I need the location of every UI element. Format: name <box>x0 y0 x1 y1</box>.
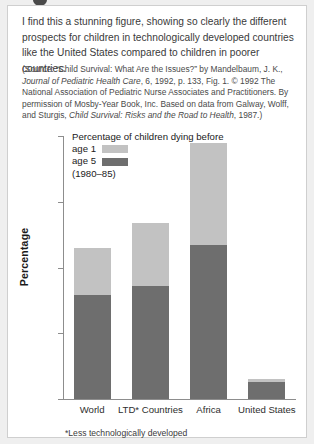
bar-segment-age5 <box>248 382 285 399</box>
bar-world <box>74 248 111 399</box>
y-axis-line <box>63 136 64 399</box>
y-axis-tick <box>58 136 63 137</box>
x-axis-line <box>63 399 296 400</box>
bar-segment-age1 <box>190 143 227 246</box>
x-axis-label: LTD* Countries <box>118 404 183 415</box>
bar-chart: Percentage Percentage of children dying … <box>8 131 308 439</box>
bar-ltd-countries <box>132 223 169 399</box>
bar-segment-age5 <box>190 245 227 399</box>
chart-footnote: *Less technologically developed <box>65 428 187 438</box>
y-axis-tick <box>58 268 63 269</box>
source-citation: (Source: “Child Survival: What Are the I… <box>22 64 299 122</box>
figure-page: I find this a stunning figure, showing s… <box>0 0 314 444</box>
x-axis-label: Africa <box>196 404 221 415</box>
bar-africa <box>190 143 227 399</box>
y-axis-tick <box>58 399 63 400</box>
x-axis-label: United States <box>238 404 296 415</box>
y-axis-label: Percentage <box>18 217 30 297</box>
y-axis-tick <box>58 202 63 203</box>
bar-united-states <box>248 379 285 399</box>
source-book-title: Child Survival: Risks and the Road to He… <box>69 110 234 120</box>
bar-segment-age1 <box>132 223 169 286</box>
source-book-details: , 1987.) <box>234 110 262 120</box>
bar-segment-age5 <box>132 286 169 399</box>
source-article-title: “Child Survival: What Are the Issues?” b… <box>56 64 283 74</box>
bar-segment-age1 <box>74 248 111 295</box>
y-axis-tick <box>58 333 63 334</box>
bar-segment-age5 <box>74 295 111 399</box>
figure-card: I find this a stunning figure, showing s… <box>7 5 307 438</box>
source-open-paren: (Source: <box>22 64 54 74</box>
plot-area: 05101520WorldLTD* CountriesAfricaUnited … <box>63 136 296 399</box>
source-journal-name: Journal of Pediatric Health Care <box>22 76 141 86</box>
x-axis-label: World <box>80 404 105 415</box>
